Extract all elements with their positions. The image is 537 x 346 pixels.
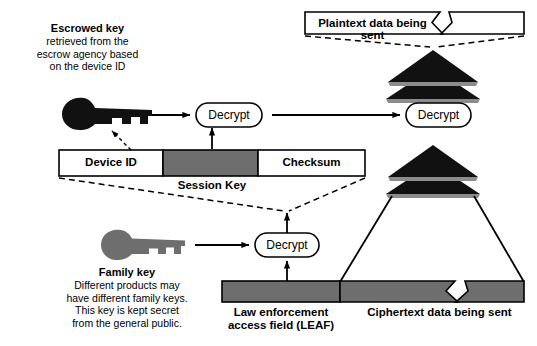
ciphertext-caption: Ciphertext data being sent	[352, 306, 527, 318]
family-key-line-4: from the general public.	[72, 317, 182, 329]
plaintext-bar-label: Plaintext data being sent	[305, 17, 440, 41]
escrowed-key-line-3: on the device ID	[50, 60, 126, 72]
escrowed-key-heading: Escrowed key	[10, 22, 165, 35]
leaf-caption-line-2: access field (LEAF)	[216, 319, 346, 331]
family-key-heading: Family key	[42, 266, 212, 279]
escrowed-key-note: Escrowed key retrieved from the escrow a…	[10, 22, 165, 73]
ciphertext-funnel-lines	[340, 196, 524, 282]
session-key-device-id-label: Device ID	[59, 156, 163, 168]
family-key-line-2: have different family keys.	[66, 292, 187, 304]
bottom-data-bar	[222, 281, 524, 302]
decrypt-leaf-label: Decrypt	[255, 238, 319, 252]
leaf-caption-line-1: Law enforcement	[216, 306, 346, 318]
bottom-bar-segment-ciphertext-b	[456, 281, 524, 302]
dashed-pointer-deviceid-to-key	[112, 131, 131, 150]
lower-double-triangle-arrow	[386, 145, 480, 198]
decrypt-session-label: Decrypt	[196, 108, 262, 122]
upper-double-triangle-arrow	[386, 50, 480, 103]
session-key-caption: Session Key	[152, 179, 272, 191]
family-key-note: Family key Different products may have d…	[42, 266, 212, 330]
bottom-bar-segment-leaf	[222, 281, 340, 302]
bottom-bar-segment-ciphertext-a	[340, 281, 458, 302]
key-escrow-diagram: Escrowed key retrieved from the escrow a…	[0, 0, 537, 346]
session-key-checksum-label: Checksum	[258, 156, 365, 168]
escrowed-key-line-2: escrow agency based	[37, 48, 139, 60]
decrypt-plaintext-label: Decrypt	[406, 108, 471, 122]
family-key-line-3: This key is kept secret	[75, 304, 179, 316]
session-key-segment-middle	[163, 150, 258, 176]
family-key-line-1: Different products may	[74, 279, 179, 291]
escrowed-key-icon	[62, 98, 152, 130]
escrowed-key-line-1: retrieved from the	[46, 35, 128, 47]
family-key-icon	[101, 230, 185, 260]
